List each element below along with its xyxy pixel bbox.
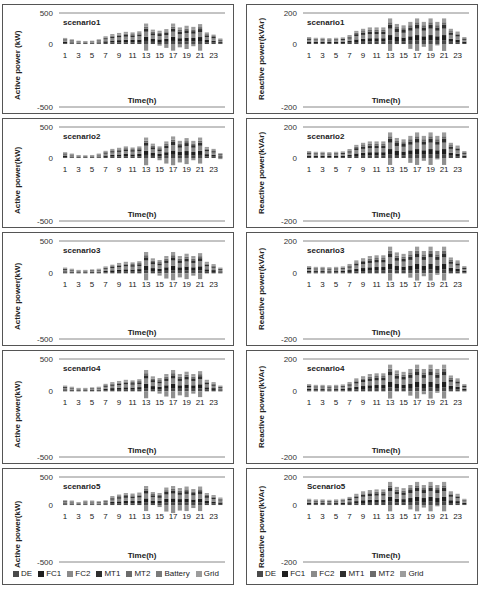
svg-text:9: 9 [117,398,122,407]
svg-text:Time(h): Time(h) [372,210,401,219]
svg-text:9: 9 [117,512,122,521]
svg-text:17: 17 [413,165,422,174]
svg-text:3: 3 [320,165,325,174]
svg-text:21: 21 [440,165,449,174]
chart-panel-5: 500-50001357911131517192123scenario3Time… [2,232,234,346]
svg-text:9: 9 [117,165,122,174]
svg-text:23: 23 [209,165,218,174]
svg-text:200: 200 [284,237,298,246]
svg-text:7: 7 [347,398,352,407]
svg-text:15: 15 [399,51,408,60]
svg-text:17: 17 [169,512,178,521]
svg-text:13: 13 [142,165,151,174]
svg-text:-500: -500 [37,453,54,462]
svg-text:Time(h): Time(h) [128,210,157,219]
svg-text:21: 21 [196,512,205,521]
svg-text:-500: -500 [37,558,54,567]
svg-text:11: 11 [128,512,137,521]
svg-text:13: 13 [142,398,151,407]
svg-text:15: 15 [399,398,408,407]
svg-text:13: 13 [386,280,395,289]
svg-text:0: 0 [293,154,298,163]
svg-text:15: 15 [399,280,408,289]
svg-text:-500: -500 [37,335,54,344]
y-axis-label: Active power(kW) [13,147,22,214]
svg-text:21: 21 [440,512,449,521]
svg-text:200: 200 [284,355,298,364]
chart-panel-2: 200-20001357911131517192123scenario1Time… [246,4,478,114]
svg-text:1: 1 [307,165,312,174]
svg-text:3: 3 [320,51,325,60]
svg-text:500: 500 [40,237,54,246]
svg-text:200: 200 [284,473,298,482]
chart-panel-9: 500-50001357911131517192123scenario5Time… [2,468,234,585]
svg-text:200: 200 [284,9,298,18]
svg-text:21: 21 [196,398,205,407]
svg-text:500: 500 [40,473,54,482]
svg-text:7: 7 [347,51,352,60]
chart-panel-7: 500-50001357911131517192123scenario4Time… [2,350,234,464]
svg-text:23: 23 [209,512,218,521]
svg-text:5: 5 [90,51,95,60]
chart-panel-1: 500-50001357911131517192123scenario1Time… [2,4,234,114]
svg-text:17: 17 [413,398,422,407]
svg-text:500: 500 [40,9,54,18]
svg-text:-200: -200 [281,558,298,567]
svg-text:3: 3 [76,51,81,60]
svg-text:7: 7 [103,280,108,289]
chart-panel-10: 200-20001357911131517192123Scenario5Time… [246,468,478,585]
svg-text:15: 15 [155,51,164,60]
legend-item: DE [257,569,276,578]
svg-text:13: 13 [386,165,395,174]
y-axis-label: Reactive power(kVAr) [257,18,266,100]
svg-text:1: 1 [307,51,312,60]
svg-text:11: 11 [372,512,381,521]
svg-text:scenario4: scenario4 [63,364,101,373]
svg-text:500: 500 [40,355,54,364]
svg-text:5: 5 [334,512,339,521]
svg-text:scenario3: scenario3 [63,246,101,255]
svg-text:9: 9 [117,51,122,60]
svg-text:21: 21 [440,280,449,289]
svg-text:5: 5 [334,165,339,174]
y-axis-label: Active power (kW) [13,31,22,100]
svg-text:5: 5 [334,280,339,289]
svg-text:9: 9 [361,280,366,289]
chart-panel-6: 200-20001357911131517192123secnario3Time… [246,232,478,346]
svg-text:13: 13 [386,398,395,407]
svg-text:17: 17 [169,51,178,60]
svg-text:21: 21 [196,280,205,289]
svg-text:5: 5 [90,165,95,174]
svg-text:3: 3 [76,398,81,407]
svg-text:23: 23 [209,398,218,407]
svg-text:15: 15 [155,512,164,521]
chart-panel-3: 500-50001357911131517192123scenario2Time… [2,118,234,228]
svg-text:19: 19 [182,165,191,174]
svg-text:1: 1 [63,51,68,60]
svg-text:Time(h): Time(h) [372,96,401,105]
svg-text:19: 19 [426,280,435,289]
svg-text:19: 19 [426,398,435,407]
chart-legend: DEFC1FC2MT1MT2Grid [257,569,424,578]
svg-text:5: 5 [334,398,339,407]
svg-text:Time(h): Time(h) [372,328,401,337]
svg-text:0: 0 [49,501,54,510]
svg-text:-200: -200 [281,453,298,462]
legend-item: Grid [400,569,423,578]
svg-text:23: 23 [453,165,462,174]
svg-text:1: 1 [63,398,68,407]
svg-text:15: 15 [155,165,164,174]
svg-text:11: 11 [372,165,381,174]
svg-text:17: 17 [413,51,422,60]
y-axis-label: Reactive power(kVAr) [257,132,266,214]
svg-text:500: 500 [40,123,54,132]
svg-text:1: 1 [307,398,312,407]
svg-text:11: 11 [372,51,381,60]
svg-text:Time(h): Time(h) [372,446,401,455]
svg-text:19: 19 [426,165,435,174]
svg-text:7: 7 [103,165,108,174]
svg-text:11: 11 [128,280,137,289]
svg-text:9: 9 [361,512,366,521]
legend-item: FC2 [311,569,334,578]
legend-item: MT1 [340,569,364,578]
